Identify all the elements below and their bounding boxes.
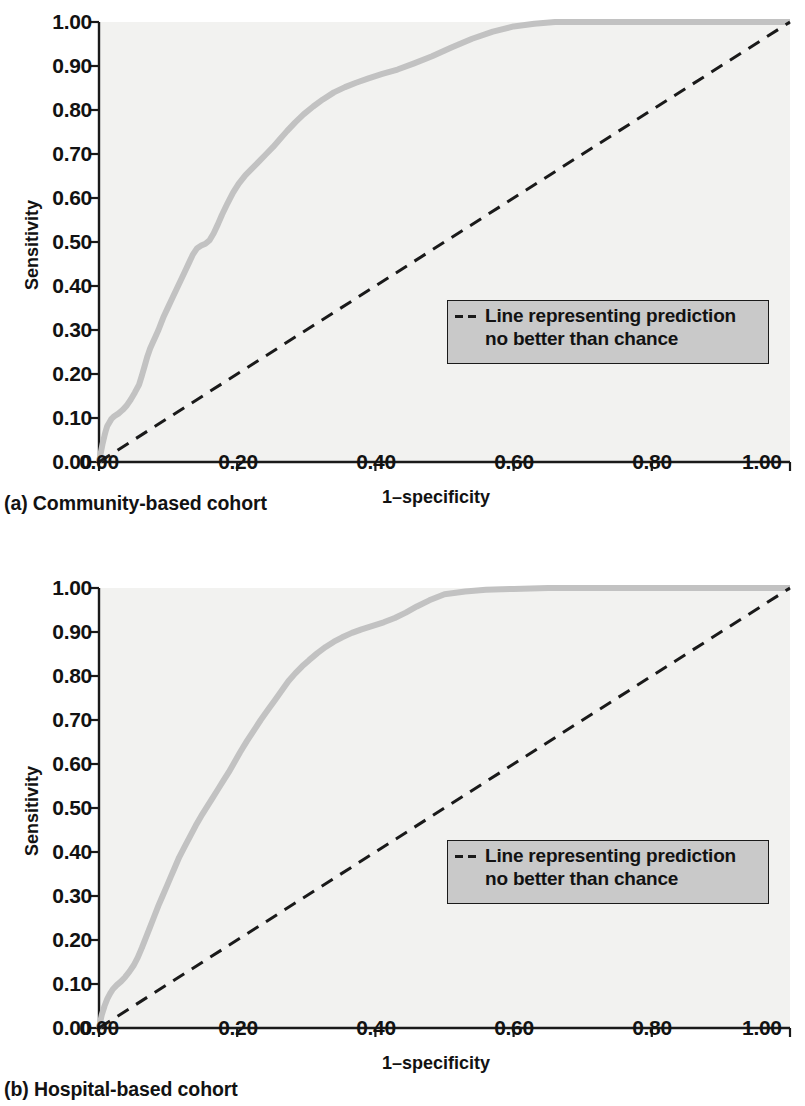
x-axis-title: 1–specificity [382,487,490,508]
x-axis-title: 1–specificity [382,1053,490,1074]
y-tick-label: 0.90 [8,620,92,644]
x-tick-label: 0.80 [610,1016,694,1040]
y-tick-label: 0.10 [8,972,92,996]
legend-label: Line representing prediction no better t… [485,844,736,890]
y-tick-label: 0.20 [8,928,92,952]
y-tick-label: 0.90 [8,54,92,78]
y-axis-title: Sensitivity [22,200,43,290]
x-tick-label: 0.40 [334,450,418,474]
y-tick-label: 0.70 [8,708,92,732]
y-tick-label: 0.10 [8,406,92,430]
x-tick-label: 1.00 [742,1016,805,1040]
y-tick-label: 1.00 [8,10,92,34]
x-tick-label: 0.00 [57,450,141,474]
roc-figure: 1.00 0.90 0.80 0.70 0.60 0.50 0.40 0.30 … [0,0,805,1106]
y-tick-label: 0.40 [8,840,92,864]
x-tick-label: 0.80 [610,450,694,474]
y-tick-label: 0.80 [8,664,92,688]
legend-label: Line representing prediction no better t… [485,304,736,350]
x-tick-label: 1.00 [742,450,805,474]
dashed-line-icon [455,855,478,858]
y-tick-label: 0.50 [8,796,92,820]
legend-box: Line representing prediction no better t… [447,840,769,904]
legend-box: Line representing prediction no better t… [447,300,769,364]
x-tick-label: 0.60 [472,1016,556,1040]
panel-b-caption: (b) Hospital-based cohort [4,1078,238,1101]
dashed-line-icon [455,315,478,318]
y-axis-title: Sensitivity [22,766,43,856]
x-tick-label: 0.20 [196,450,280,474]
panel-a-caption: (a) Community-based cohort [4,492,267,515]
x-tick-label: 0.40 [334,1016,418,1040]
y-tick-label: 0.40 [8,274,92,298]
x-tick-label: 0.60 [472,450,556,474]
x-tick-label: 0.00 [57,1016,141,1040]
panel-b: 1.00 0.90 0.80 0.70 0.60 0.50 0.40 0.30 … [0,566,805,1106]
y-tick-label: 0.70 [8,142,92,166]
y-tick-label: 0.20 [8,362,92,386]
y-tick-label: 0.60 [8,186,92,210]
y-tick-label: 0.50 [8,230,92,254]
y-tick-label: 0.30 [8,884,92,908]
x-tick-label: 0.20 [196,1016,280,1040]
y-tick-label: 0.80 [8,98,92,122]
y-tick-label: 0.60 [8,752,92,776]
y-tick-label: 1.00 [8,576,92,600]
panel-a: 1.00 0.90 0.80 0.70 0.60 0.50 0.40 0.30 … [0,0,805,530]
y-tick-label: 0.30 [8,318,92,342]
